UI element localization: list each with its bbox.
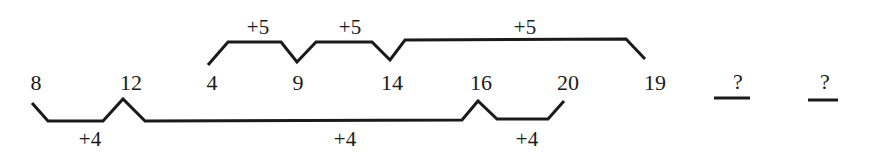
upper-step-label: +5 bbox=[339, 15, 361, 39]
unknown-answer-mark: ? bbox=[733, 69, 743, 94]
lower-step-label: +4 bbox=[516, 127, 539, 151]
unknown-answer-mark: ? bbox=[820, 69, 830, 94]
lower-bracket-line bbox=[32, 99, 564, 121]
sequence-number: 8 bbox=[31, 70, 42, 95]
sequence-number: 9 bbox=[293, 70, 304, 95]
lower-step-label: +4 bbox=[334, 127, 357, 151]
sequence-number: 20 bbox=[557, 70, 579, 95]
sequence-number: 16 bbox=[470, 70, 492, 95]
upper-step-label: +5 bbox=[247, 15, 269, 39]
sequence-number: 19 bbox=[644, 70, 666, 95]
sequence-number: 14 bbox=[381, 70, 403, 95]
lower-step-label: +4 bbox=[79, 127, 102, 151]
number-pattern-diagram: +5 +5 +5 +4 +4 +4 8 12 4 9 14 16 20 19 ?… bbox=[0, 0, 871, 154]
sequence-number: 12 bbox=[120, 70, 142, 95]
upper-step-label: +5 bbox=[514, 15, 536, 39]
diagram-svg: +5 +5 +5 +4 +4 +4 8 12 4 9 14 16 20 19 ?… bbox=[0, 0, 871, 154]
sequence-number: 4 bbox=[207, 70, 218, 95]
upper-bracket-line bbox=[208, 39, 645, 65]
